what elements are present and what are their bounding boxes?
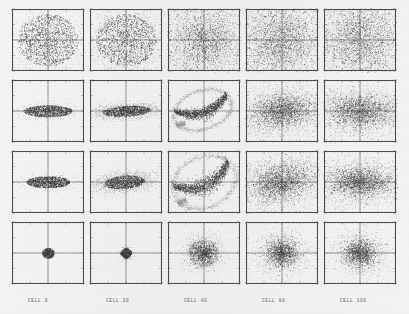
panel-point-cloud xyxy=(12,99,85,124)
panel-plot-area xyxy=(90,151,162,213)
panel-plot-area xyxy=(12,80,84,142)
column-label-cell-0: CELL 0 xyxy=(28,297,48,303)
scatter-panel-cell-80-row-1 xyxy=(246,80,318,142)
scatter-panel-cell-80-row-0 xyxy=(246,9,318,71)
panel-plot-area xyxy=(324,222,396,284)
panel-point-cloud xyxy=(245,221,319,285)
panel-plot-area xyxy=(12,151,84,213)
scatter-panel-cell-20-row-2 xyxy=(90,151,162,213)
panel-axes xyxy=(247,223,317,283)
scatter-panel-cell-100-row-2 xyxy=(324,151,396,213)
panel-axes xyxy=(325,10,395,70)
scatter-panel-cell-0-row-0 xyxy=(12,9,84,71)
panel-point-cloud xyxy=(171,86,235,133)
panel-plot-area xyxy=(168,222,240,284)
panel-plot-area xyxy=(168,9,240,71)
scatter-plot-grid xyxy=(0,0,409,314)
panel-plot-area xyxy=(90,9,162,71)
panel-point-cloud xyxy=(89,8,163,72)
scatter-panel-cell-80-row-2 xyxy=(246,151,318,213)
panel-plot-area xyxy=(12,222,84,284)
panel-plot-area xyxy=(324,151,396,213)
column-label-cell-40: CELL 40 xyxy=(184,297,207,303)
panel-plot-area xyxy=(90,222,162,284)
column-label-cell-80: CELL 80 xyxy=(262,297,285,303)
scatter-panel-cell-40-row-3 xyxy=(168,222,240,284)
panel-point-cloud xyxy=(89,168,162,202)
scatter-panel-cell-0-row-3 xyxy=(12,222,84,284)
scatter-panel-cell-100-row-1 xyxy=(324,80,396,142)
panel-plot-area xyxy=(246,9,318,71)
panel-plot-area xyxy=(246,151,318,213)
panel-plot-area xyxy=(324,9,396,71)
scatter-panel-cell-100-row-0 xyxy=(324,9,396,71)
column-label-cell-100: CELL 100 xyxy=(340,297,367,303)
panel-plot-area xyxy=(168,80,240,142)
panel-plot-area xyxy=(12,9,84,71)
panel-plot-area xyxy=(168,151,240,213)
scatter-panel-cell-20-row-0 xyxy=(90,9,162,71)
panel-point-cloud xyxy=(245,80,319,144)
scatter-panel-cell-40-row-1 xyxy=(168,80,240,142)
scatter-panel-cell-80-row-3 xyxy=(246,222,318,284)
scatter-panel-cell-20-row-3 xyxy=(90,222,162,284)
scatter-panel-cell-0-row-1 xyxy=(12,80,84,142)
scatter-panel-cell-0-row-2 xyxy=(12,151,84,213)
scatter-panel-cell-100-row-3 xyxy=(324,222,396,284)
panel-point-cloud xyxy=(323,79,397,143)
panel-plot-area xyxy=(246,222,318,284)
scatter-panel-cell-40-row-2 xyxy=(168,151,240,213)
panel-plot-area xyxy=(90,80,162,142)
panel-plot-area xyxy=(246,80,318,142)
panel-plot-area xyxy=(324,80,396,142)
scatter-panel-cell-20-row-1 xyxy=(90,80,162,142)
scatter-panel-cell-40-row-0 xyxy=(168,9,240,71)
column-label-cell-20: CELL 20 xyxy=(106,297,129,303)
